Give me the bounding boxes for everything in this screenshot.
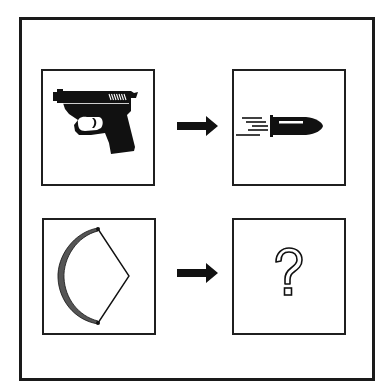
arrow-row-2: → xyxy=(177,263,219,283)
bow-icon xyxy=(44,220,154,333)
arrow-right-icon xyxy=(177,116,219,136)
panel-bow: Bow xyxy=(42,218,156,335)
bullet-icon xyxy=(234,71,344,184)
panel-answer[interactable]: ? xyxy=(232,218,346,335)
arrow-right-icon xyxy=(177,263,219,283)
arrow-row-1: → xyxy=(177,116,219,136)
panel-pistol: Pistol xyxy=(41,69,155,186)
pistol-icon xyxy=(43,71,153,184)
panel-bullet: Bullet xyxy=(232,69,346,186)
question-mark-icon xyxy=(234,220,344,333)
